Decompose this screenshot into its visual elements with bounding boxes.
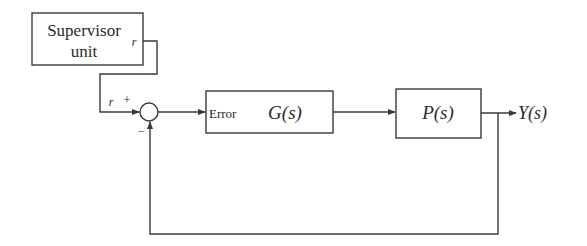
- supervisor-output-label: r: [132, 35, 137, 49]
- summing-junction: [140, 103, 158, 121]
- controller-block: Error G(s): [206, 91, 333, 133]
- plant-block: P(s): [396, 89, 481, 138]
- supervisor-unit-block: Supervisor unit r: [32, 13, 143, 65]
- supervisor-label-line1: Supervisor: [47, 21, 121, 40]
- controller-label: G(s): [268, 102, 302, 124]
- output-label: Y(s): [518, 103, 547, 124]
- reference-input-label: r: [109, 95, 114, 109]
- plant-label: P(s): [421, 102, 454, 124]
- error-label: Error: [209, 106, 237, 121]
- plus-sign: +: [123, 92, 130, 107]
- control-diagram: Supervisor unit r r + – Error G(s) P(s) …: [0, 0, 587, 246]
- supervisor-label-line2: unit: [71, 42, 98, 61]
- minus-sign: –: [137, 124, 144, 136]
